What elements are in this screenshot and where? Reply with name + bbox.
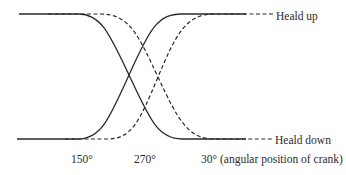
x-tick-150: 150° [71,153,93,166]
x-tick-270: 270° [134,153,156,166]
x-tick-30-axis-label: 30° (angular position of crank) [201,153,343,166]
solid-falling-curve [19,14,246,139]
heald-up-label: Heald up [276,10,318,23]
solid-rising-curve [17,14,246,139]
dashed-falling-curve [48,14,272,139]
dashed-rising-curve [65,14,274,139]
heald-timing-diagram [0,0,346,175]
heald-down-label: Heald down [275,134,331,147]
